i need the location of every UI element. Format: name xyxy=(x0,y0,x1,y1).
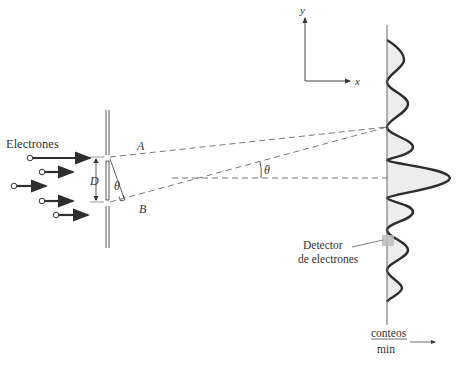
counts-numerator: conteos xyxy=(371,327,406,339)
electrons-label: Electrones xyxy=(6,138,59,150)
electron-5 xyxy=(53,212,88,218)
slit-barrier xyxy=(106,110,109,248)
x-axis-label: x xyxy=(355,75,360,87)
detector-leader-line xyxy=(352,240,383,247)
coordinate-axes xyxy=(305,18,350,81)
theta-slit-label: θ xyxy=(114,180,120,192)
electron-3 xyxy=(11,183,46,189)
detector-label-line1: Detector xyxy=(303,239,343,251)
ray-lines xyxy=(110,127,387,202)
electron-1 xyxy=(27,155,90,161)
electron-detector xyxy=(382,235,394,246)
electron-4 xyxy=(39,198,73,204)
counts-denominator: min xyxy=(377,343,395,355)
detector-label-line2: de electrones xyxy=(298,253,358,265)
theta-center-label: θ xyxy=(264,164,270,176)
ray-a-label: A xyxy=(137,140,144,152)
angle-arc xyxy=(260,162,261,178)
double-slit-diagram xyxy=(0,0,463,367)
y-axis-label: y xyxy=(300,4,305,16)
electron-2 xyxy=(39,169,73,175)
electron-beams xyxy=(11,155,90,218)
ray-b-label: B xyxy=(139,203,146,215)
slit-separation-label: D xyxy=(90,175,99,187)
